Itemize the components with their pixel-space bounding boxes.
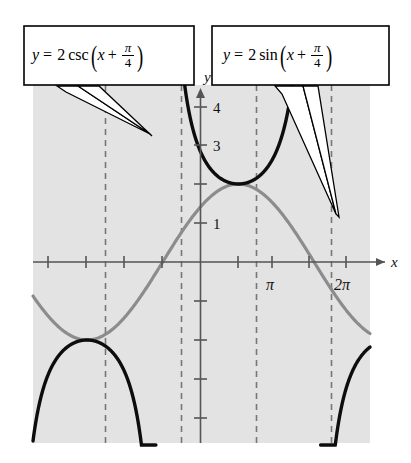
y-tick-label-1: 1	[213, 216, 221, 232]
x-tick-label-2pi: 2π	[334, 276, 351, 293]
trig-graph-figure: 4 3 1 π 2π x y y = 2 csc ( x + π 4 ) y	[0, 0, 411, 463]
x-axis-arrowhead	[376, 258, 385, 266]
y-tick-label-4: 4	[213, 100, 221, 116]
csc-callout-box	[24, 26, 194, 85]
sin-callout-box	[212, 26, 389, 85]
y-tick-label-3: 3	[213, 138, 221, 154]
graph-canvas: 4 3 1 π 2π x y	[0, 0, 411, 463]
y-axis-label: y	[202, 69, 211, 85]
x-tick-label-pi: π	[266, 276, 275, 293]
x-axis-label: x	[390, 254, 398, 270]
